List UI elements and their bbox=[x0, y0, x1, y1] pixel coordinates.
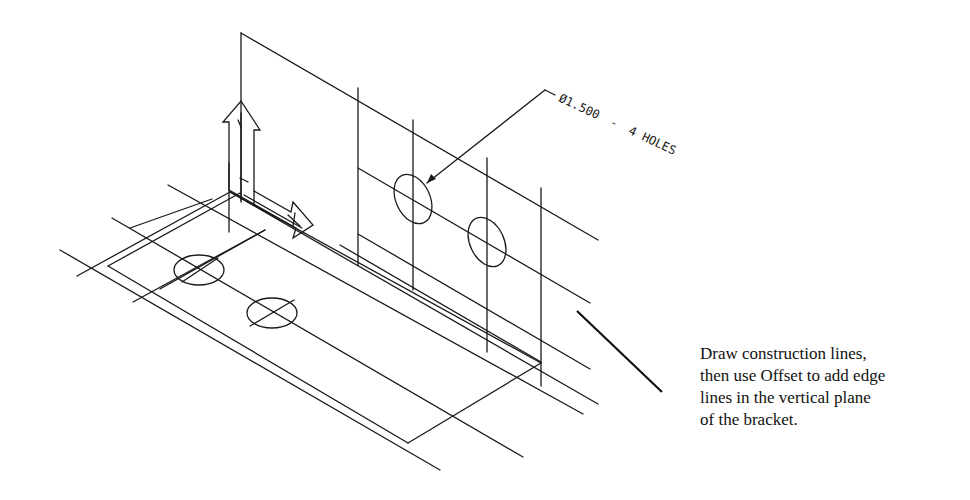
caption-line-3: lines in the vertical plane bbox=[700, 387, 960, 409]
dimension-separator: - bbox=[608, 115, 620, 131]
holes bbox=[174, 168, 513, 328]
dimension-count: 4 HOLES bbox=[627, 124, 679, 158]
ucs-icon bbox=[223, 101, 313, 238]
caption-line-2: then use Offset to add edge bbox=[700, 365, 960, 387]
svg-text:Ø1.500 - 4 HOLES: Ø1.500 - 4 HOLES bbox=[557, 91, 679, 158]
hole-dimension: Ø1.500 - 4 HOLES bbox=[427, 90, 678, 183]
dimension-diameter: Ø1.500 bbox=[557, 91, 602, 122]
caption-line-1: Draw construction lines, bbox=[700, 343, 960, 365]
figure-caption: Draw construction lines, then use Offset… bbox=[700, 343, 960, 431]
caption-leader bbox=[577, 311, 662, 392]
caption-line-4: of the bracket. bbox=[700, 409, 960, 431]
base-plate-lines bbox=[60, 185, 598, 470]
vertical-plane-lines bbox=[241, 33, 598, 386]
